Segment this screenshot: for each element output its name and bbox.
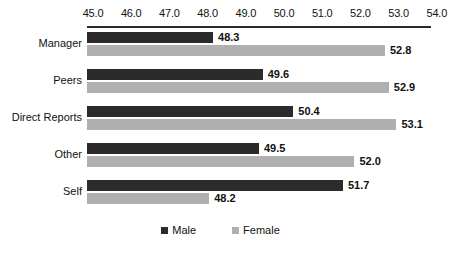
bar-female[interactable] xyxy=(87,193,209,204)
x-axis-tick-label: 52.0 xyxy=(340,7,380,19)
bar-female[interactable] xyxy=(87,119,396,130)
bar-group: Direct Reports50.453.1 xyxy=(0,106,441,132)
legend-swatch-icon xyxy=(232,227,239,234)
bar-value-label: 49.6 xyxy=(263,68,289,80)
bar-value-label: 51.7 xyxy=(343,179,369,191)
legend-item-female[interactable]: Female xyxy=(232,224,280,236)
legend-swatch-icon xyxy=(161,227,168,234)
category-label: Manager xyxy=(0,37,82,49)
bar-value-label: 49.5 xyxy=(259,142,285,154)
bar-value-label: 52.9 xyxy=(389,81,415,93)
category-label: Peers xyxy=(0,74,82,86)
legend-label: Female xyxy=(243,224,280,236)
bar-female[interactable] xyxy=(87,156,354,167)
x-axis-tick-label: 47.0 xyxy=(149,7,189,19)
bar-group: Other49.552.0 xyxy=(0,143,441,169)
bar-value-label: 52.8 xyxy=(385,44,411,56)
bar-value-label: 53.1 xyxy=(396,118,422,130)
bar-value-label: 50.4 xyxy=(293,105,319,117)
x-axis-tick-label: 50.0 xyxy=(264,7,304,19)
x-axis-tick-label: 46.0 xyxy=(111,7,151,19)
x-axis-tick-label: 51.0 xyxy=(302,7,342,19)
x-axis-tick-label: 45.0 xyxy=(73,7,113,19)
bar-value-label: 48.3 xyxy=(213,31,239,43)
bar-male[interactable] xyxy=(87,106,293,117)
bar-male[interactable] xyxy=(87,143,259,154)
x-axis-line xyxy=(87,26,431,28)
category-label: Self xyxy=(0,185,82,197)
bar-female[interactable] xyxy=(87,82,389,93)
legend-label: Male xyxy=(172,224,196,236)
legend-item-male[interactable]: Male xyxy=(161,224,196,236)
category-label: Other xyxy=(0,148,82,160)
bar-group: Self51.748.2 xyxy=(0,180,441,206)
x-axis-tick-label: 54.0 xyxy=(417,7,452,19)
chart-legend: MaleFemale xyxy=(0,224,441,236)
bar-male[interactable] xyxy=(87,69,263,80)
bar-male[interactable] xyxy=(87,180,343,191)
x-axis-tick-label: 49.0 xyxy=(226,7,266,19)
x-axis-tick-label: 48.0 xyxy=(188,7,228,19)
x-axis-tick-label: 53.0 xyxy=(379,7,419,19)
bar-value-label: 48.2 xyxy=(209,192,235,204)
bar-male[interactable] xyxy=(87,32,213,43)
bar-value-label: 52.0 xyxy=(354,155,380,167)
plot-area: Manager48.352.8Peers49.652.9Direct Repor… xyxy=(0,30,441,218)
bar-group: Peers49.652.9 xyxy=(0,69,441,95)
bar-female[interactable] xyxy=(87,45,385,56)
category-label: Direct Reports xyxy=(0,111,82,123)
bar-group: Manager48.352.8 xyxy=(0,32,441,58)
